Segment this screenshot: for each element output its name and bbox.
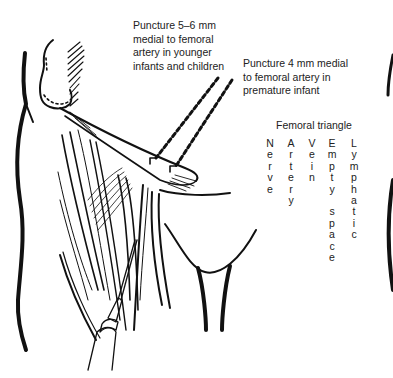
navel-column-nerve: N e r v e (264, 138, 276, 195)
label-premature-infant: Puncture 4 mm medial to femoral artery i… (243, 57, 348, 98)
letter: a (326, 229, 338, 240)
groin-left-leg (198, 268, 206, 330)
label-line: Puncture 5–6 mm (133, 19, 224, 33)
navel-column-lymphatic: L y m p h a t i c (348, 138, 360, 241)
letter: e (326, 252, 338, 263)
thigh-muscles (58, 130, 170, 330)
leg-outline-lower-2 (63, 252, 100, 338)
ligament-curve-right (160, 190, 230, 195)
puncture-guides (156, 78, 232, 166)
letter: p (348, 172, 360, 183)
groin-right-leg (222, 266, 230, 330)
puncture-guide-steps (150, 158, 176, 172)
leg-outline-lower (60, 255, 96, 340)
label-line: medial to femoral (133, 33, 224, 47)
label-line: premature infant (243, 84, 348, 98)
letter: e (264, 184, 276, 195)
letter: y (326, 184, 338, 195)
label-line: infants and children (133, 60, 224, 74)
letter: e (285, 172, 297, 183)
navel-column-vein: V e i n (306, 138, 318, 184)
label-line: artery in younger (133, 46, 224, 60)
navel-column-empty-space: E m p t y s p a c e (326, 138, 338, 263)
body-outline-branch (26, 104, 33, 122)
iliac-crest-dotted (44, 58, 68, 104)
label-older-children: Puncture 5–6 mm medial to femoral artery… (133, 19, 224, 73)
label-line: Puncture 4 mm medial (243, 57, 348, 71)
letter: y (285, 195, 297, 206)
label-line: to femoral artery in (243, 71, 348, 85)
needle-syringe (88, 240, 137, 370)
inguinal-hatching (68, 42, 84, 106)
navel-column-artery: A r t e r y (285, 138, 297, 206)
letter: n (306, 172, 318, 183)
body-outline-right-bottom (389, 180, 393, 290)
groin-contour (165, 224, 256, 273)
letter: t (326, 172, 338, 183)
body-outline-left (17, 53, 26, 350)
letter: c (348, 229, 360, 240)
femoral-triangle-title: Femoral triangle (276, 119, 352, 131)
iliac-crest (40, 40, 72, 108)
letter: v (264, 172, 276, 183)
body-outline-right-top (388, 55, 393, 95)
inguinal-ligament-upper (60, 108, 197, 181)
